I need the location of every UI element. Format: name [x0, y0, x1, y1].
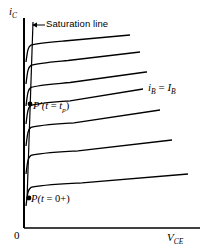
- base-current-label: iB = IB: [148, 82, 176, 96]
- p-prime-close: ): [66, 100, 70, 111]
- x-axis-label: VCE: [167, 232, 183, 246]
- base-current-value-sub: B: [171, 87, 176, 96]
- characteristic-curve-5: [26, 110, 160, 146]
- point-p-prime-label: P′(t = tp): [33, 101, 69, 114]
- characteristic-curve-1: [26, 35, 130, 62]
- p-zero-equals: = 0+: [44, 193, 66, 204]
- p-prime-equals: =: [48, 100, 59, 111]
- p-zero-close: ): [66, 193, 70, 204]
- y-axis-label: iC: [9, 6, 17, 20]
- origin-label: 0: [14, 230, 20, 241]
- p-zero-name: P(: [31, 193, 41, 204]
- point-p-zero-label: P(t = 0+): [31, 194, 70, 205]
- base-current-equals: =: [156, 81, 168, 93]
- p-prime-name: P′(: [33, 100, 45, 111]
- characteristic-curve-6: [26, 140, 172, 174]
- figure-transistor-characteristics: iC VCE 0 Saturation line iB = IB P′(t = …: [0, 0, 204, 250]
- x-axis-label-symbol: V: [167, 231, 174, 243]
- p-prime-marker: [28, 102, 33, 107]
- y-axis-label-subscript: C: [12, 11, 17, 20]
- x-axis-label-subscript: CE: [174, 237, 184, 246]
- characteristic-curve-2: [26, 52, 140, 84]
- plot-canvas: [0, 0, 204, 250]
- saturation-line-label: Saturation line: [46, 19, 108, 29]
